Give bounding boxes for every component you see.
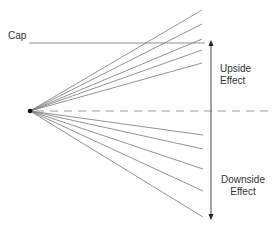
origin-point	[28, 109, 33, 114]
downside-label-line2: Effect	[216, 186, 270, 198]
arrowhead-up-icon	[209, 40, 214, 46]
upside-fan-lines	[30, 10, 202, 111]
downside-label-line1: Downside	[216, 174, 270, 186]
downside-effect-label: Downside Effect	[216, 174, 270, 198]
upside-label-line1: Upside	[220, 63, 251, 75]
upside-label-line2: Effect	[220, 75, 251, 87]
downside-fan-lines	[30, 111, 203, 217]
arrowhead-down-icon	[209, 214, 214, 220]
upside-effect-label: Upside Effect	[220, 63, 251, 87]
cap-label: Cap	[8, 30, 26, 42]
